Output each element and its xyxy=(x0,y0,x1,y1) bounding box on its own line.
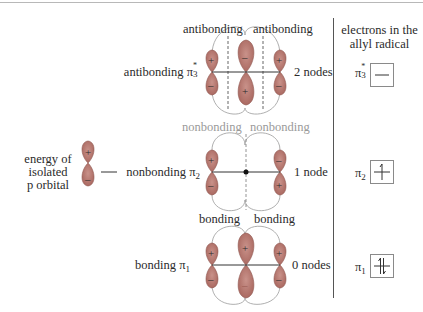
pi2-sign: + xyxy=(276,180,282,191)
electrons-header: electrons in the allyl radical xyxy=(336,23,423,51)
pi3-orbital-diagram xyxy=(206,27,286,114)
pi3-interaction-label: antibonding xyxy=(183,23,243,36)
pi3-electron-box xyxy=(370,63,394,87)
pi2-sign: – xyxy=(208,180,214,191)
single-electron-icon xyxy=(371,161,393,183)
pi3-box-label: π*3 xyxy=(355,67,368,80)
pi2-node-count: 1 node xyxy=(294,166,328,179)
pi3-sign: – xyxy=(242,52,248,63)
pi1-sign: – xyxy=(242,280,248,291)
pi1-sign: – xyxy=(276,274,282,285)
pi3-sign: – xyxy=(276,80,282,91)
pi1-interaction-label: bonding xyxy=(199,213,240,226)
pi2-sign: + xyxy=(208,155,214,166)
pi3-sign: + xyxy=(276,55,282,66)
pi1-sign: – xyxy=(208,274,214,285)
pi3-level-label: antibonding π*3 xyxy=(90,66,200,79)
column-divider xyxy=(333,18,334,298)
pi2-box-label: π2 xyxy=(355,167,366,182)
pi1-sign: + xyxy=(276,248,282,259)
pi3-interaction-label: antibonding xyxy=(253,23,313,36)
pi3-node-count: 2 nodes xyxy=(294,66,333,79)
pi1-electron-box xyxy=(370,254,394,278)
isolated-plus-sign: + xyxy=(85,147,91,158)
pi2-electron-box xyxy=(370,160,394,184)
pi1-sign: + xyxy=(242,243,248,254)
pi1-sign: + xyxy=(208,248,214,259)
pi1-interaction-label: bonding xyxy=(254,213,295,226)
central-carbon-node xyxy=(244,170,249,175)
pi3-sign: + xyxy=(208,55,214,66)
isolated-p-label: energy of isolated p orbital xyxy=(22,153,74,192)
pi3-sign: + xyxy=(242,86,248,97)
pi2-orbital-diagram xyxy=(206,133,286,211)
pi2-interaction-label: nonbonding xyxy=(250,121,310,134)
pi1-orbital-diagram xyxy=(206,226,286,304)
pi1-level-label: bonding π1 xyxy=(90,259,190,274)
pi1-node-count: 0 nodes xyxy=(292,259,331,272)
pi3-sign: – xyxy=(208,80,214,91)
pi2-level-label: nonbonding π2 xyxy=(90,166,200,181)
empty-level-icon xyxy=(371,64,393,86)
pi2-interaction-label: nonbonding xyxy=(182,121,242,134)
pi1-box-label: π1 xyxy=(355,261,366,276)
pi2-sign: – xyxy=(276,155,282,166)
electron-pair-icon xyxy=(371,255,393,277)
